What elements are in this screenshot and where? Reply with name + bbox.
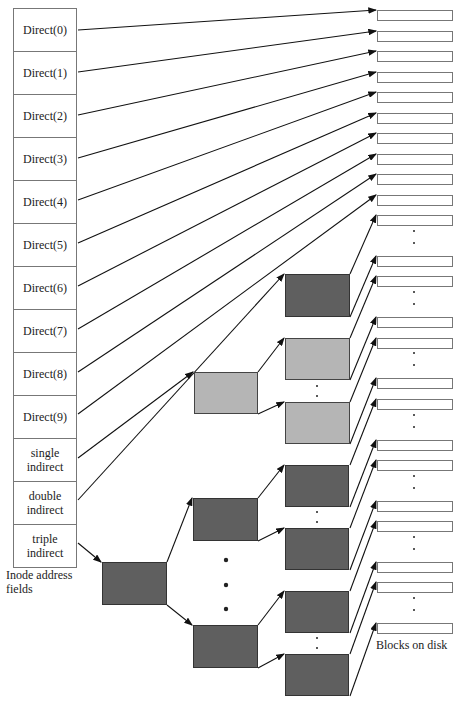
- triple-indirect-level3-block-3: [285, 591, 349, 633]
- triple-indirect-level3-block-2: [285, 528, 349, 570]
- triple-indirect-level2-block-1: [193, 498, 258, 541]
- disk-block: [377, 72, 453, 83]
- disk-block: [377, 317, 453, 328]
- disk-block: [377, 31, 453, 42]
- disk-block: [377, 256, 453, 267]
- disk-block: [377, 113, 453, 124]
- disk-block: [377, 521, 453, 532]
- triple-indirect-level3-block-4: [285, 654, 349, 696]
- triple-indirect-level3-block-1: [285, 465, 349, 507]
- disk-block: [377, 154, 453, 165]
- disk-block: [377, 51, 453, 62]
- disk-block: [377, 215, 453, 226]
- disk-block: [377, 399, 453, 410]
- single-indirect-block: [194, 372, 258, 414]
- disk-block: [377, 460, 453, 471]
- disk-block: [377, 133, 453, 144]
- triple-indirect-level1-block: [102, 562, 167, 605]
- disk-block: [377, 276, 453, 287]
- disk-block: [377, 174, 453, 185]
- triple-indirect-level2-block-2: [193, 625, 258, 668]
- double-indirect-block: [285, 274, 350, 317]
- single-indirect-pointer-block-2: [285, 402, 350, 444]
- disk-block: [377, 582, 453, 593]
- disk-block: [377, 10, 453, 21]
- disk-blocks-label: Blocks on disk: [376, 638, 447, 652]
- disk-block: [377, 195, 453, 206]
- connector-lines: [0, 0, 464, 709]
- disk-block: [377, 378, 453, 389]
- disk-block: [377, 562, 453, 573]
- single-indirect-pointer-block-1: [285, 338, 350, 380]
- disk-block: [377, 440, 453, 451]
- disk-block: [377, 92, 453, 103]
- disk-block: [377, 501, 453, 512]
- disk-block: [377, 338, 453, 349]
- disk-block: [377, 623, 453, 634]
